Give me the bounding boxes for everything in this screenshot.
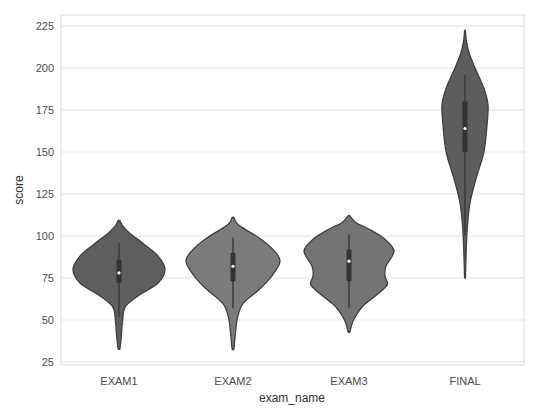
y-tick-label: 25 — [42, 356, 54, 368]
y-axis-label: score — [12, 175, 26, 205]
x-tick-label: EXAM2 — [214, 375, 251, 387]
x-axis-ticks: EXAM1EXAM2EXAM3FINAL — [100, 375, 480, 387]
y-tick-label: 125 — [36, 188, 54, 200]
x-tick-label: EXAM3 — [330, 375, 367, 387]
y-tick-label: 50 — [42, 314, 54, 326]
x-tick-label: EXAM1 — [100, 375, 137, 387]
y-axis-ticks: 255075100125150175200225 — [36, 20, 54, 368]
y-tick-label: 225 — [36, 20, 54, 32]
y-tick-label: 200 — [36, 62, 54, 74]
median-marker — [117, 271, 120, 274]
violin-exam1 — [73, 221, 165, 350]
iqr-box — [463, 102, 468, 152]
y-tick-label: 150 — [36, 146, 54, 158]
median-marker — [231, 265, 234, 268]
violin-final — [442, 30, 488, 278]
y-tick-label: 75 — [42, 272, 54, 284]
median-marker — [347, 260, 350, 263]
violin-chart: 255075100125150175200225 EXAM1EXAM2EXAM3… — [0, 0, 536, 414]
iqr-box — [347, 249, 352, 281]
x-axis-label: exam_name — [259, 391, 325, 405]
y-tick-label: 175 — [36, 104, 54, 116]
violins — [73, 30, 488, 349]
violin-exam3 — [304, 215, 394, 332]
violin-exam2 — [186, 217, 280, 350]
x-tick-label: FINAL — [449, 375, 480, 387]
iqr-box — [117, 260, 122, 284]
y-tick-label: 100 — [36, 230, 54, 242]
median-marker — [463, 127, 466, 130]
